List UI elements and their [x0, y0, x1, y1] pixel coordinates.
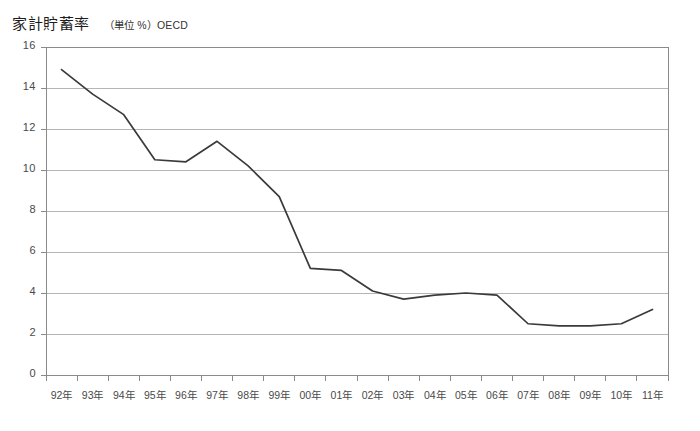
y-axis-tick-label: 4 [8, 285, 36, 297]
x-axis-tick-label: 01年 [326, 387, 357, 402]
x-axis-tick-label: 08年 [544, 387, 575, 402]
y-axis-tick-label: 0 [8, 367, 36, 379]
y-axis-tick-label: 12 [8, 121, 36, 133]
y-axis-tick-label: 16 [8, 39, 36, 51]
x-axis-tick-label: 96年 [170, 387, 201, 402]
x-axis-tick-label: 02年 [357, 387, 388, 402]
x-axis-tick-label: 09年 [575, 387, 606, 402]
x-axis-tick-label: 98年 [233, 387, 264, 402]
household-savings-rate-chart: 家計貯蓄率 （単位 %）OECD 0246810121416 92年93年94年… [0, 0, 700, 431]
x-axis-tick-label: 03年 [388, 387, 419, 402]
x-axis-tick-label: 99年 [264, 387, 295, 402]
y-axis-tick-label: 6 [8, 244, 36, 256]
y-axis-tick-label: 2 [8, 326, 36, 338]
x-axis-tick-label: 07年 [513, 387, 544, 402]
x-axis-ticks [46, 375, 668, 381]
x-axis-tick-label: 97年 [202, 387, 233, 402]
x-axis-tick-label: 00年 [295, 387, 326, 402]
y-axis-ticks [41, 47, 46, 375]
x-axis-tick-label: 10年 [606, 387, 637, 402]
x-axis-tick-label: 92年 [46, 387, 77, 402]
x-axis-tick-label: 93年 [77, 387, 108, 402]
x-axis-tick-label: 11年 [637, 387, 668, 402]
y-axis-tick-label: 10 [8, 162, 36, 174]
x-axis-tick-label: 04年 [419, 387, 450, 402]
y-axis-tick-label: 14 [8, 80, 36, 92]
x-axis-tick-label: 94年 [108, 387, 139, 402]
data-series-line [62, 70, 653, 326]
y-axis-tick-label: 8 [8, 203, 36, 215]
chart-plot-area [0, 0, 700, 431]
x-axis-tick-label: 05年 [450, 387, 481, 402]
x-axis-tick-label: 06年 [481, 387, 512, 402]
x-axis-tick-label: 95年 [139, 387, 170, 402]
